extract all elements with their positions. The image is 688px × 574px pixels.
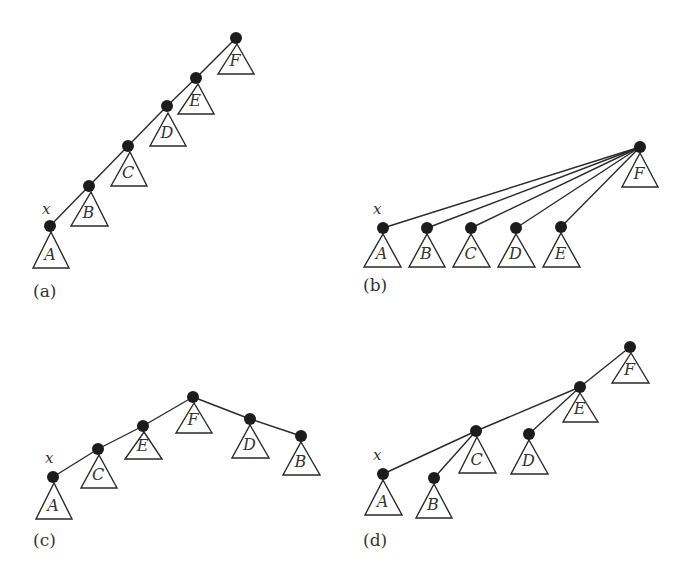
tree-edge bbox=[476, 387, 580, 431]
node-c bbox=[465, 222, 477, 234]
node-f bbox=[634, 141, 646, 153]
subtree-label: F bbox=[623, 360, 636, 379]
node-x bbox=[47, 471, 59, 483]
subtree-label: D bbox=[160, 123, 174, 142]
subtree-label: B bbox=[294, 452, 307, 471]
node-f bbox=[624, 341, 636, 353]
subtree-label: A bbox=[374, 244, 388, 263]
subtree-label: E bbox=[188, 91, 201, 110]
panel-d: ABCDEFx(d) bbox=[363, 341, 649, 550]
subtree-label: B bbox=[419, 244, 432, 263]
subtree-label: C bbox=[122, 163, 134, 182]
node-x bbox=[377, 222, 389, 234]
subtree-label: D bbox=[508, 244, 522, 263]
node-x-label: x bbox=[42, 200, 51, 218]
tree-edge bbox=[383, 147, 640, 228]
node-f bbox=[230, 32, 242, 44]
subtree-label: E bbox=[136, 436, 149, 455]
panel-label: (b) bbox=[363, 275, 387, 295]
node-e bbox=[574, 381, 586, 393]
subtree-label: B bbox=[82, 203, 95, 222]
node-e bbox=[137, 420, 149, 432]
node-b bbox=[295, 430, 307, 442]
node-x-label: x bbox=[373, 446, 382, 464]
node-f bbox=[187, 391, 199, 403]
panel-b: ABCDEFx(b) bbox=[363, 141, 658, 295]
node-x-label: x bbox=[45, 449, 54, 467]
panel-label: (c) bbox=[33, 530, 56, 550]
node-b bbox=[428, 472, 440, 484]
node-e bbox=[190, 72, 202, 84]
node-x bbox=[44, 220, 56, 232]
panel-label: (a) bbox=[33, 281, 56, 301]
node-d bbox=[161, 100, 173, 112]
node-c bbox=[122, 140, 134, 152]
tree-edge bbox=[250, 419, 301, 436]
node-b bbox=[83, 180, 95, 192]
node-x-label: x bbox=[373, 200, 382, 218]
subtree-label: E bbox=[554, 244, 567, 263]
subtree-label: C bbox=[464, 244, 476, 263]
subtree-label: A bbox=[42, 245, 56, 264]
subtree-label: F bbox=[632, 164, 645, 183]
subtree-label: C bbox=[470, 450, 482, 469]
node-e bbox=[555, 221, 567, 233]
splay-tree-figure: ABCDEFx(a)ABCDEFx(b)ACEFDBx(c)ABCDEFx(d) bbox=[0, 0, 688, 574]
panel-c: ACEFDBx(c) bbox=[33, 391, 320, 550]
node-c bbox=[92, 443, 104, 455]
node-c bbox=[470, 425, 482, 437]
node-x bbox=[377, 468, 389, 480]
subtree-label: D bbox=[521, 451, 535, 470]
panel-label: (d) bbox=[363, 530, 387, 550]
subtree-label: F bbox=[228, 51, 241, 70]
subtree-label: D bbox=[242, 435, 256, 454]
node-d bbox=[510, 222, 522, 234]
subtree-label: F bbox=[186, 410, 199, 429]
subtree-label: A bbox=[45, 496, 59, 515]
subtree-label: E bbox=[573, 399, 586, 418]
node-d bbox=[244, 413, 256, 425]
node-d bbox=[523, 428, 535, 440]
node-b bbox=[421, 222, 433, 234]
tree-edge bbox=[471, 147, 640, 228]
panel-a: ABCDEFx(a) bbox=[33, 32, 254, 301]
subtree-label: B bbox=[426, 495, 439, 514]
subtree-label: C bbox=[92, 465, 104, 484]
subtree-label: A bbox=[375, 492, 389, 511]
